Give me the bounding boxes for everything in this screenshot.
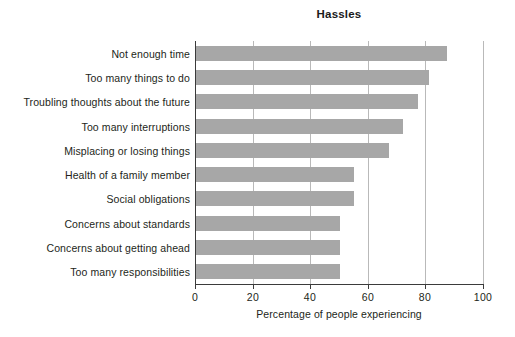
chart-title: Hassles (195, 8, 483, 20)
bar (196, 94, 418, 109)
x-axis-line (195, 284, 484, 285)
bar (196, 119, 403, 134)
category-label: Health of a family member (0, 169, 190, 181)
category-label: Too many responsibilities (0, 266, 190, 278)
x-tick-20 (253, 284, 254, 289)
category-label: Concerns about standards (0, 218, 190, 230)
x-tick-100 (483, 284, 484, 289)
category-label: Concerns about getting ahead (0, 242, 190, 254)
plot-area: 020406080100 (195, 41, 483, 284)
x-tick-label-80: 80 (419, 291, 431, 303)
x-axis-title: Percentage of people experiencing (195, 308, 483, 320)
x-tick-60 (368, 284, 369, 289)
x-tick-80 (425, 284, 426, 289)
bar (196, 191, 354, 206)
x-tick-label-0: 0 (192, 291, 198, 303)
x-tick-label-60: 60 (362, 291, 374, 303)
bar (196, 240, 340, 255)
x-tick-0 (195, 284, 196, 289)
category-label: Not enough time (0, 48, 190, 60)
bar (196, 264, 340, 279)
category-label: Social obligations (0, 193, 190, 205)
bar (196, 143, 389, 158)
bar-chart-figure: Hassles Not enough timeToo many things t… (0, 0, 515, 337)
bar (196, 70, 429, 85)
category-label: Misplacing or losing things (0, 145, 190, 157)
bar (196, 216, 340, 231)
category-axis-labels: Not enough timeToo many things to doTrou… (0, 41, 190, 284)
category-label: Too many things to do (0, 72, 190, 84)
bar (196, 167, 354, 182)
category-label: Troubling thoughts about the future (0, 96, 190, 108)
x-tick-label-100: 100 (474, 291, 492, 303)
bar (196, 46, 447, 61)
x-tick-label-40: 40 (304, 291, 316, 303)
category-label: Too many interruptions (0, 121, 190, 133)
x-tick-label-20: 20 (247, 291, 259, 303)
gridline-100 (483, 41, 484, 284)
x-tick-40 (310, 284, 311, 289)
